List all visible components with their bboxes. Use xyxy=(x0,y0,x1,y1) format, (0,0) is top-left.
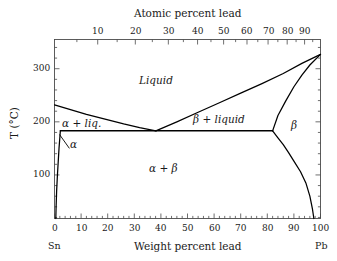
phase-boundary xyxy=(273,131,314,219)
top-tick-label: 50 xyxy=(218,27,229,36)
region-label-alpha-beta: α + β xyxy=(149,163,178,174)
top-tick-label: 80 xyxy=(282,27,293,36)
left-axis-title: T (°C) xyxy=(8,107,20,139)
top-tick-label: 40 xyxy=(192,27,203,36)
left-tick-label: 100 xyxy=(33,170,50,179)
sn-end-label: Sn xyxy=(48,241,61,251)
region-label-alpha-liquid: α + liq. xyxy=(62,118,101,129)
region-label-beta-liquid: β + liquid xyxy=(193,114,245,125)
diagram-canvas xyxy=(0,0,337,261)
top-tick-label: 20 xyxy=(130,27,141,36)
bottom-tick-label: 100 xyxy=(312,224,329,233)
top-tick-label: 70 xyxy=(263,27,274,36)
bottom-tick-label: 30 xyxy=(129,224,140,233)
top-tick-label: 10 xyxy=(92,27,103,36)
pb-end-label: Pb xyxy=(315,241,327,251)
top-tick-label: 60 xyxy=(241,27,252,36)
top-tick-label: 90 xyxy=(299,27,310,36)
bottom-tick-label: 60 xyxy=(209,224,220,233)
bottom-tick-label: 20 xyxy=(102,224,113,233)
plot-frame xyxy=(55,40,321,219)
left-tick-label: 200 xyxy=(33,117,50,126)
bottom-axis-title: Weight percent lead xyxy=(134,241,241,252)
bottom-tick-label: 10 xyxy=(76,224,87,233)
phase-diagram-figure: Atomic percent leadWeight percent lead10… xyxy=(0,0,337,261)
bottom-tick-label: 70 xyxy=(235,224,246,233)
top-tick-label: 30 xyxy=(163,27,174,36)
left-tick-label: 300 xyxy=(33,64,50,73)
bottom-tick-label: 40 xyxy=(155,224,166,233)
region-label-beta: β xyxy=(291,120,297,131)
bottom-tick-label: 0 xyxy=(52,224,58,233)
top-axis-title: Atomic percent lead xyxy=(134,8,241,19)
alpha-leader-line xyxy=(60,135,70,149)
region-label-liquid: Liquid xyxy=(139,75,173,86)
bottom-tick-label: 50 xyxy=(182,224,193,233)
region-label-alpha: α xyxy=(70,139,77,150)
bottom-tick-label: 80 xyxy=(262,224,273,233)
bottom-tick-label: 90 xyxy=(288,224,299,233)
